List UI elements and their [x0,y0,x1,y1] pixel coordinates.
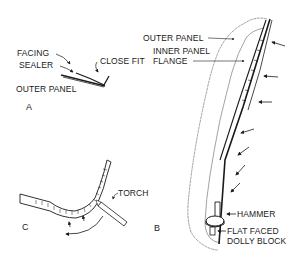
figure-label-a: A [26,102,32,112]
figure-label-b: B [154,223,160,233]
callout-torch: TORCH [118,189,149,198]
figure-label-c: C [22,222,29,232]
callout-hammer: HAMMER [237,210,275,219]
callout-dolly-line1: FLAT FACED [227,227,279,236]
callout-inner-panel-flange-line2: FLANGE [153,57,188,66]
callout-close-fit: CLOSE FIT [100,57,145,66]
callout-outer-panel-b: OUTER PANEL [143,34,203,43]
callout-dolly-line2: DOLLY BLOCK [227,237,286,246]
callout-sealer: SEALER [19,61,53,70]
callout-inner-panel-flange-line1: INNER PANEL [153,47,210,56]
callout-outer-panel-a: OUTER PANEL [16,85,76,94]
figure-c-drawing [20,160,127,234]
callout-facing: FACING [17,49,49,58]
diagram-canvas: FACING SEALER CLOSE FIT OUTER PANEL A OU… [0,0,305,258]
